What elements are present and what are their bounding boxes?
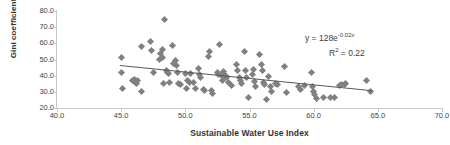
y-axis-tick-mark (53, 60, 57, 61)
y-axis-tick-mark (53, 11, 57, 12)
y-axis-tick-label: 80.0 (24, 7, 54, 15)
data-point (119, 85, 126, 92)
x-axis-tick-label: 55.0 (230, 111, 270, 120)
data-point (197, 74, 204, 81)
x-axis-tick-label: 60.0 (294, 111, 334, 120)
x-axis-tick-mark (314, 108, 315, 112)
y-axis-tick-labels: 80.070.060.050.040.030.020.0 (22, 0, 54, 145)
x-axis-tick-label: 40.0 (37, 111, 77, 120)
data-point (118, 54, 125, 61)
r-squared-value: = 0.22 (338, 48, 364, 58)
data-point (206, 48, 213, 55)
data-point (313, 95, 320, 102)
data-point (166, 79, 173, 86)
data-point (138, 43, 145, 50)
r-squared-label: R2 = 0.22 (329, 47, 365, 58)
trendline-equation-exponent: -0.02x (338, 32, 355, 38)
x-axis-tick-mark (185, 108, 186, 112)
data-point (118, 69, 125, 76)
data-point (256, 51, 263, 58)
x-axis-tick-label: 70.0 (422, 111, 450, 120)
trendline-equation-base: y = 128e (305, 33, 338, 43)
data-point (228, 82, 235, 89)
y-axis-tick-mark (53, 76, 57, 77)
data-point (241, 48, 248, 55)
data-point (169, 42, 176, 49)
scatter-chart: Gini coefficient 80.070.060.050.040.030.… (0, 0, 450, 145)
data-point (147, 38, 154, 45)
data-point (148, 47, 155, 54)
x-axis-tick-mark (57, 108, 58, 112)
data-point (138, 88, 145, 95)
data-point (234, 67, 241, 74)
data-point (238, 80, 245, 87)
data-point (150, 69, 157, 76)
data-point (192, 85, 199, 92)
x-axis-tick-mark (121, 108, 122, 112)
y-axis-tick-mark (53, 92, 57, 93)
x-axis-tick-mark (250, 108, 251, 112)
x-axis-tick-label: 45.0 (101, 111, 141, 120)
plot-area (57, 11, 442, 108)
y-axis-tick-label: 50.0 (24, 56, 54, 64)
x-axis-tick-label: 65.0 (358, 111, 398, 120)
y-axis-tick-mark (53, 43, 57, 44)
x-axis-tick-mark (442, 108, 443, 112)
data-point (283, 89, 290, 96)
y-axis-title: Gini coefficient (9, 0, 18, 77)
data-point (245, 94, 252, 101)
data-point (134, 77, 141, 84)
data-point (268, 88, 275, 95)
data-point (363, 77, 370, 84)
data-point (263, 96, 270, 103)
data-point (161, 16, 168, 23)
y-axis-tick-label: 60.0 (24, 39, 54, 47)
x-axis-tick-label: 50.0 (165, 111, 205, 120)
y-axis-tick-mark (53, 27, 57, 28)
x-axis-tick-mark (378, 108, 379, 112)
data-point (216, 41, 223, 48)
y-axis-tick-label: 30.0 (24, 88, 54, 96)
x-axis-title: Sustainable Water Use Index (57, 128, 442, 138)
data-point (281, 63, 288, 70)
data-point (331, 94, 338, 101)
data-point (308, 69, 315, 76)
data-point (259, 67, 266, 74)
trendline-equation: y = 128e-0.02x (305, 32, 355, 43)
data-point (252, 83, 259, 90)
y-axis-tick-label: 40.0 (24, 72, 54, 80)
y-axis-tick-label: 70.0 (24, 23, 54, 31)
